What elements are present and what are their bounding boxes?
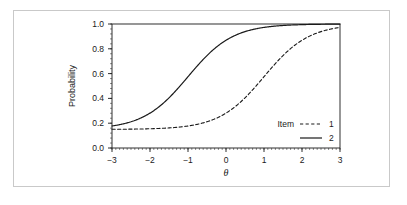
y-axis-major-ticks (108, 24, 112, 148)
y-tick-label: 0.6 (92, 69, 104, 79)
y-axis-title: Probability (67, 64, 77, 107)
x-tick-label: −2 (145, 155, 155, 165)
y-tick-label: 0.4 (92, 93, 104, 103)
x-axis-title: θ (224, 167, 229, 178)
item-characteristic-curve-chart: −3−2−10123 0.00.20.40.60.81.0 Probabilit… (0, 0, 407, 205)
y-axis-tick-labels: 0.00.20.40.60.81.0 (92, 19, 104, 153)
chart-legend: Item 1 2 (277, 119, 334, 143)
legend-label-item-2: 2 (329, 133, 334, 143)
x-axis-tick-labels: −3−2−10123 (107, 155, 342, 165)
y-tick-label: 0.2 (92, 118, 104, 128)
x-tick-label: 1 (262, 155, 267, 165)
series-curves (112, 24, 340, 129)
legend-title: Item (277, 119, 294, 129)
series-curve-item-2 (112, 24, 340, 126)
x-tick-label: 3 (338, 155, 343, 165)
y-tick-label: 1.0 (92, 19, 104, 29)
x-tick-label: 0 (224, 155, 229, 165)
y-tick-label: 0.0 (92, 143, 104, 153)
legend-label-item-1: 1 (329, 119, 334, 129)
y-tick-label: 0.8 (92, 44, 104, 54)
x-tick-label: −1 (183, 155, 193, 165)
x-tick-label: −3 (107, 155, 117, 165)
figure-root: −3−2−10123 0.00.20.40.60.81.0 Probabilit… (0, 0, 407, 205)
x-tick-label: 2 (300, 155, 305, 165)
series-curve-item-1 (112, 27, 340, 129)
